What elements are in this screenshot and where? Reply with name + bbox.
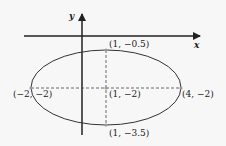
label-left: (−2, −2) <box>13 89 52 99</box>
y-axis-label: y <box>68 11 75 21</box>
label-right: (4, −2) <box>182 89 214 99</box>
label-center: (1, −2) <box>109 89 141 99</box>
point-bottom <box>104 123 107 126</box>
x-axis-label: x <box>193 40 200 50</box>
label-top: (1, −0.5) <box>109 39 149 49</box>
point-top <box>104 48 107 51</box>
point-center <box>104 86 107 89</box>
label-bottom: (1, −3.5) <box>109 128 149 138</box>
ellipse-diagram: x y (1, −0.5) (1, −3.5) (−2, −2) (4, −2)… <box>0 0 226 146</box>
diagram-svg: x y (1, −0.5) (1, −3.5) (−2, −2) (4, −2)… <box>0 0 226 146</box>
